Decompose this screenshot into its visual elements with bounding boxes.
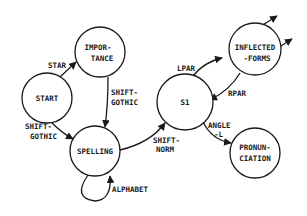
node-label: SPELLING	[77, 147, 114, 156]
edge-s1-inflected: LPAR	[177, 58, 222, 76]
edge-inflected-s1: RPAR	[210, 73, 247, 100]
edge-label-shift-norm-2: NORM	[156, 145, 175, 154]
edge-label-rpar: RPAR	[228, 89, 247, 98]
node-label: START	[36, 94, 59, 103]
edge-label-angle-1: ANGLE	[208, 121, 231, 130]
node-spelling: SPELLING	[70, 126, 120, 176]
edge-label-shift-gothic-2: GOTHIC	[30, 132, 57, 141]
node-label: S1	[180, 98, 190, 107]
node-label-1: PRONUN-	[239, 143, 271, 152]
edge-spelling-self-loop: ALPHABET	[81, 175, 148, 201]
edge-label-lpar: LPAR	[177, 64, 196, 73]
edge-label-angle-2: -L	[214, 130, 224, 139]
node-label-1: INFLECTED	[235, 43, 276, 52]
node-s1: S1	[157, 74, 213, 130]
edge-label-shift-gothic-a: SHIFT-	[111, 88, 138, 97]
node-label-2: CIATION	[239, 154, 271, 163]
edge-start-spelling: SHIFT- GOTHIC	[25, 122, 73, 141]
node-label-2: -FORMS	[243, 54, 271, 63]
state-diagram: STAR SHIFT- GOTHIC SHIFT- GOTHIC ALPHABE…	[0, 0, 307, 216]
edge-spelling-s1: SHIFT- NORM	[120, 123, 180, 154]
edge-label-shift-gothic-b: GOTHIC	[111, 98, 138, 107]
node-label-2: TANCE	[91, 54, 114, 63]
edge-label-shift-norm-1: SHIFT-	[153, 136, 180, 145]
node-pronunciation: PRONUN- CIATION	[230, 128, 280, 178]
node-importance: IMPOR- TANCE	[75, 27, 125, 77]
node-label-1: IMPOR-	[84, 43, 111, 52]
edge-label-alphabet: ALPHABET	[112, 185, 149, 194]
edge-label-star: STAR	[48, 61, 67, 70]
edge-s1-pronunciation: ANGLE -L	[203, 121, 231, 143]
edge-importance-spelling: SHIFT- GOTHIC	[105, 77, 138, 127]
node-start: START	[22, 73, 72, 123]
node-inflected-forms: INFLECTED -FORMS	[229, 23, 281, 75]
